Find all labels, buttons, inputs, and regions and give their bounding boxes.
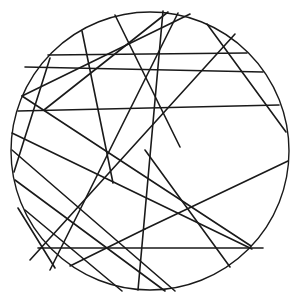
- chord-lines: [12, 11, 288, 291]
- chord-line: [12, 133, 252, 249]
- chord-line: [145, 150, 230, 267]
- chord-diagram-svg: [0, 0, 295, 303]
- chord-line: [44, 12, 168, 110]
- chord-line: [145, 161, 288, 229]
- chord-diagram: [0, 0, 295, 303]
- chord-line: [22, 96, 251, 246]
- chord-line: [25, 67, 263, 72]
- chord-line: [207, 24, 286, 132]
- chord-line: [14, 58, 50, 172]
- chord-line: [18, 105, 279, 111]
